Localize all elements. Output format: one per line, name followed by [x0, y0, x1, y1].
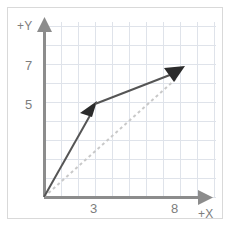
- plot-canvas: [0, 0, 231, 232]
- vector-a: [44, 101, 97, 197]
- y-tick-label-5: 5: [25, 98, 32, 111]
- x-tick-label-3: 3: [90, 202, 97, 215]
- x-axis: [44, 190, 213, 205]
- x-tick-label-8: 8: [171, 202, 178, 215]
- y-tick-label-7: 7: [25, 59, 32, 72]
- vector-b: [95, 66, 185, 104]
- y-axis-label: +Y: [17, 20, 32, 32]
- vector-addition-figure: +Y +X 7 5 3 8: [0, 0, 231, 232]
- x-axis-label: +X: [198, 208, 213, 220]
- y-axis: [37, 17, 52, 197]
- grid-vertical: [45, 22, 215, 197]
